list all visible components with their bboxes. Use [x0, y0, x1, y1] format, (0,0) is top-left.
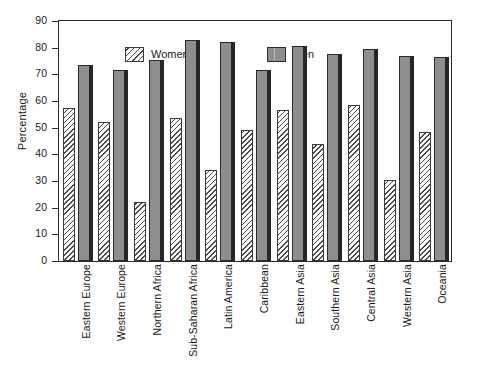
x-axis-label: Western Europe	[115, 264, 127, 370]
x-axis-label: Eastern Europe	[80, 264, 92, 370]
y-tick-label: 10	[3, 227, 47, 239]
x-axis-label: Latin America	[222, 264, 234, 370]
x-axis-label: Caribbean	[258, 264, 270, 370]
bar-women	[277, 110, 289, 261]
bar-women	[98, 122, 110, 261]
bar-group	[384, 21, 420, 261]
x-axis-label: Northern Africa	[151, 264, 163, 370]
bar-group	[205, 21, 241, 261]
bar-group	[170, 21, 206, 261]
bar-men	[327, 54, 342, 261]
x-axis-label: Eastern Asia	[294, 264, 306, 370]
y-tick-label: 20	[3, 201, 47, 213]
y-tick-label: 30	[3, 174, 47, 186]
y-tick-label: 60	[3, 94, 47, 106]
x-axis-labels: Eastern EuropeWestern EuropeNorthern Afr…	[59, 266, 451, 372]
bars-layer	[59, 21, 451, 261]
bar-chart: Percentage 9080706050403020100 Women Men…	[0, 0, 478, 374]
bar-group	[98, 21, 134, 261]
x-axis-label: Western Asia	[401, 264, 413, 370]
bar-group	[312, 21, 348, 261]
bar-men	[113, 70, 128, 261]
x-axis-label: Oceania	[436, 264, 448, 370]
bar-group	[348, 21, 384, 261]
x-axis-label: Central Asia	[365, 264, 377, 370]
bar-men	[434, 57, 449, 261]
bar-men	[256, 70, 271, 261]
bar-men	[185, 40, 200, 261]
bar-group	[277, 21, 313, 261]
y-tick-label: 50	[3, 121, 47, 133]
bar-men	[149, 60, 164, 261]
bar-men	[292, 46, 307, 261]
bar-women	[170, 118, 182, 261]
bar-women	[348, 105, 360, 261]
bar-group	[63, 21, 99, 261]
bar-men	[220, 42, 235, 261]
y-tick-label: 40	[3, 147, 47, 159]
bar-group	[241, 21, 277, 261]
bar-men	[78, 65, 93, 261]
y-tick-label: 90	[3, 14, 47, 26]
bar-group	[419, 21, 455, 261]
bar-women	[134, 202, 146, 261]
bar-men	[363, 49, 378, 261]
bar-women	[312, 144, 324, 261]
bar-women	[205, 170, 217, 261]
y-tick-label: 0	[3, 254, 47, 266]
bar-women	[241, 130, 253, 261]
bar-women	[419, 132, 431, 261]
bar-group	[134, 21, 170, 261]
bar-women	[63, 108, 75, 261]
x-axis-label: Sub-Saharan Africa	[187, 264, 199, 370]
y-tick-label: 70	[3, 67, 47, 79]
y-axis-ticks: 9080706050403020100	[0, 20, 58, 262]
x-axis-label: Southern Asia	[329, 264, 341, 370]
bar-men	[399, 56, 414, 261]
bar-women	[384, 180, 396, 261]
y-tick-label: 80	[3, 41, 47, 53]
